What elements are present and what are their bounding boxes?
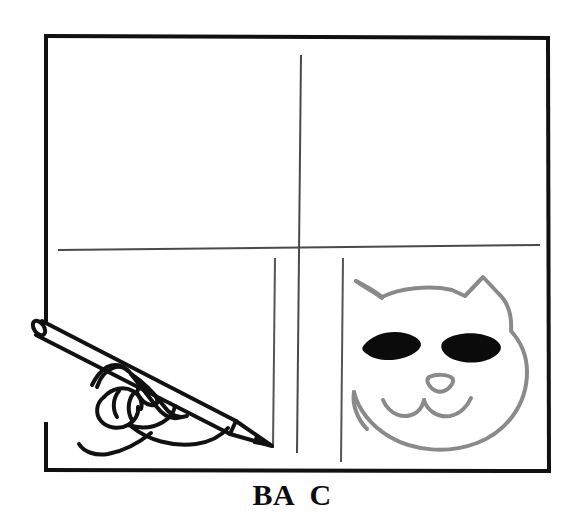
cat-mouth-left [383,400,424,416]
vertical-left-line [273,258,275,448]
cat-mouth-right [424,398,471,416]
hand-wrist-curve [79,433,151,455]
hand-thumb-top-edge [104,388,142,409]
figure-caption: BA C [0,478,584,512]
vertical-right-line [341,258,343,462]
border-right-edge [548,38,549,471]
cat-left-eye [362,332,421,360]
border-top-edge [46,36,548,38]
hand-thumb-knuckle-crease-1 [114,391,119,417]
figure-canvas: BA C [0,0,584,528]
pencil-cone-collar [230,421,236,434]
hand-thumb-knuckle-crease-2 [129,394,133,420]
border-bottom-edge [46,470,549,471]
cat-left-ear-outer [356,281,382,298]
vertical-center-line [297,55,301,453]
cat-face-drawing [354,277,527,450]
cat-head-outline [354,277,527,450]
line-drawing-figure [0,0,584,528]
cat-nose [428,375,454,392]
cat-right-eye [441,333,501,362]
hand-thumb-barrel [97,397,138,428]
